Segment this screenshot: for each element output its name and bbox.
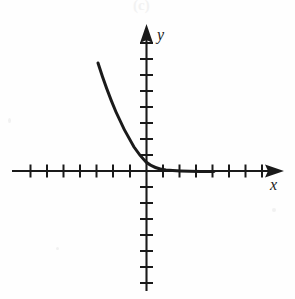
scan-speck [56,247,59,250]
exponential-decay-figure: (c) [0,0,295,299]
exponential-decay-curve [98,63,214,172]
scan-speck [8,118,11,123]
scan-speck [272,208,276,212]
x-axis-label: x [270,177,277,193]
y-axis-label: y [157,27,164,43]
coordinate-plane-graph [0,0,295,299]
